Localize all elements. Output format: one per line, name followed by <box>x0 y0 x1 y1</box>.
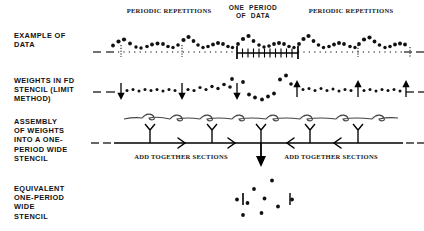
looped-weight-curve <box>124 114 398 121</box>
heading-add-together-sections-right: ADD TOGETHER SECTIONS <box>276 153 386 161</box>
heading-add-together-sections-left: ADD TOGETHER SECTIONS <box>126 153 236 161</box>
weight-arrows-down <box>118 83 239 99</box>
assembly-tines <box>145 124 363 143</box>
heading-periodic-repetitions-left: PERIODIC REPETITIONS <box>117 7 221 15</box>
panel-equivalent-stencil <box>235 179 294 217</box>
panel-weights-in-fd-stencil <box>93 74 424 102</box>
heading-periodic-repetitions-right: PERIODIC REPETITIONS <box>296 7 406 15</box>
row-label-equivalent-stencil: EQUIVALENT ONE-PERIOD WIDE STENCIL <box>14 184 65 221</box>
row-label-assembly-of-weights: ASSEMBLY OF WEIGHTS INTO A ONE- PERIOD W… <box>14 117 68 163</box>
panel-example-of-data <box>93 34 424 59</box>
heading-one-period-of-data: ONE PERIOD OF DATA <box>216 4 290 21</box>
row-label-example-of-data: EXAMPLE OF DATA <box>14 31 66 49</box>
figure-canvas: EXAMPLE OF DATA WEIGHTS IN FD STENCIL (L… <box>0 0 424 231</box>
data-points-example <box>111 34 407 50</box>
weight-points <box>126 74 402 102</box>
equiv-points <box>235 179 294 217</box>
row-label-weights-in-fd-stencil: WEIGHTS IN FD STENCIL (LIMIT METHOD) <box>14 76 74 104</box>
assembly-center-arrow <box>256 143 266 167</box>
